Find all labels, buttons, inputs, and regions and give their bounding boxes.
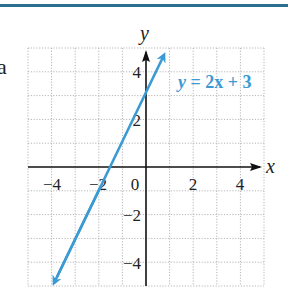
- x-axis-label: x: [265, 155, 275, 177]
- x-tick-label: 4: [236, 175, 245, 194]
- x-tick-label: 2: [189, 175, 198, 194]
- y-tick-label: −4: [123, 254, 142, 273]
- line-y-2x-plus-3-lower-arrow: [54, 188, 100, 283]
- y-tick-label: 4: [133, 63, 142, 82]
- equation-label: y = 2x + 3: [176, 72, 252, 92]
- x-tick-label: 0: [131, 175, 140, 194]
- y-tick-label: −2: [123, 206, 141, 225]
- coordinate-plane: x y −4 −2 0 2 4 4 2 −2 −4 y = 2x + 3: [0, 0, 295, 304]
- x-tick-label: −4: [43, 175, 62, 194]
- y-axis-label: y: [138, 22, 149, 45]
